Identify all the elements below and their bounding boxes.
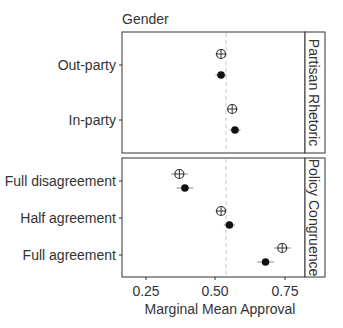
x-tick-label: 0.50 xyxy=(201,283,228,299)
panel-plot-area xyxy=(122,32,305,153)
open-circle-cross-marker xyxy=(228,105,237,114)
x-axis-title: Marginal Mean Approval xyxy=(145,301,296,317)
strip-label: Policy Congruence xyxy=(306,159,322,277)
panel-partisan-rhetoric: Partisan Rhetoric Out-party In-party xyxy=(58,32,325,153)
filled-circle-marker xyxy=(217,71,225,79)
open-circle-cross-marker xyxy=(217,50,226,59)
category-label: Half agreement xyxy=(20,210,116,226)
filled-circle-marker xyxy=(262,258,270,266)
category-label: Full disagreement xyxy=(5,173,116,189)
x-tick-label: 0.75 xyxy=(271,283,298,299)
open-circle-cross-marker xyxy=(278,244,287,253)
filled-circle-marker xyxy=(181,184,189,192)
marginal-means-chart: Gender Partisan Rhetoric Out-party In-pa… xyxy=(0,0,343,328)
x-axis: 0.25 0.50 0.75 Marginal Mean Approval xyxy=(132,277,298,317)
category-label: In-party xyxy=(69,112,116,128)
category-label: Out-party xyxy=(58,57,116,73)
strip-label: Partisan Rhetoric xyxy=(306,39,322,146)
open-circle-cross-marker xyxy=(175,170,184,179)
filled-circle-marker xyxy=(226,221,234,229)
panel-plot-area xyxy=(122,158,305,277)
chart-subtitle: Gender xyxy=(122,11,169,27)
x-tick-label: 0.25 xyxy=(132,283,159,299)
panel-policy-congruence: Policy Congruence Full disagreement Half… xyxy=(5,158,325,277)
open-circle-cross-marker xyxy=(217,207,226,216)
filled-circle-marker xyxy=(231,126,239,134)
category-label: Full agreement xyxy=(23,247,116,263)
